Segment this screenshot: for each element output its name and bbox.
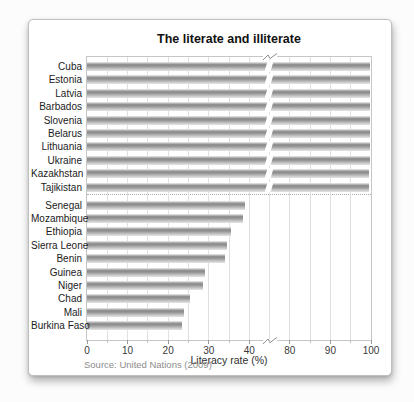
page-background: { "card": { "title": "The literate and i… <box>0 0 414 402</box>
row-label: Latvia <box>31 88 82 99</box>
gridline <box>249 57 250 340</box>
x-tick-label: 20 <box>153 345 183 356</box>
plot-area <box>86 56 372 341</box>
axis-tick <box>127 340 128 344</box>
row-label: Niger <box>31 280 82 291</box>
x-tick-label: 0 <box>72 345 102 356</box>
row-label: Estonia <box>31 74 82 85</box>
row-label: Sierra Leone <box>31 240 82 251</box>
bar <box>87 214 243 223</box>
row-label: Lithuania <box>31 141 82 152</box>
row-label: Barbados <box>31 101 82 112</box>
row-label: Tajikistan <box>31 182 82 193</box>
bar <box>87 142 370 151</box>
x-tick-label: 40 <box>234 345 264 356</box>
axis-tick <box>168 340 169 344</box>
axis-tick <box>289 340 290 344</box>
x-tick-label: 90 <box>315 345 345 356</box>
bar <box>87 294 190 303</box>
x-tick-label: 80 <box>275 345 305 356</box>
bar <box>87 254 225 263</box>
axis-tick <box>87 340 88 344</box>
row-label: Mozambique <box>31 213 82 224</box>
gridline <box>229 57 230 340</box>
chart-card: The literate and illiterate Literacy rat… <box>28 19 392 376</box>
axis-tick <box>208 340 209 344</box>
x-tick-label: 100 <box>356 345 386 356</box>
row-label: Ukraine <box>31 155 82 166</box>
x-tick-label: 10 <box>113 345 143 356</box>
axis-tick <box>310 340 311 343</box>
bar <box>87 156 370 165</box>
x-tick-label: 30 <box>194 345 224 356</box>
axis-tick <box>350 340 351 343</box>
row-label: Burkina Faso <box>31 320 82 331</box>
row-label: Slovenia <box>31 115 82 126</box>
bar <box>87 241 227 250</box>
bar <box>87 268 205 277</box>
axis-tick <box>107 340 108 343</box>
bar <box>87 102 370 111</box>
bar <box>87 75 370 84</box>
gridline <box>208 57 209 340</box>
bar <box>87 169 369 178</box>
row-label: Benin <box>31 253 82 264</box>
bar <box>87 227 231 236</box>
axis-break-top-icon <box>262 52 278 62</box>
gridline <box>310 57 311 340</box>
gridline <box>330 57 331 340</box>
axis-tick <box>330 340 331 344</box>
axis-tick <box>147 340 148 343</box>
bar <box>87 308 184 317</box>
row-label: Senegal <box>31 200 82 211</box>
source-note: Source: United Nations (2009) <box>84 359 212 370</box>
gridline <box>269 57 270 340</box>
bar <box>87 62 370 71</box>
row-label: Kazakhstan <box>31 168 82 179</box>
bar <box>87 89 370 98</box>
gridline <box>350 57 351 340</box>
chart-title: The literate and illiterate <box>86 32 372 46</box>
bar <box>87 281 203 290</box>
row-label: Ethiopia <box>31 226 82 237</box>
row-label: Chad <box>31 293 82 304</box>
gridline <box>289 57 290 340</box>
axis-tick <box>229 340 230 343</box>
axis-tick <box>188 340 189 343</box>
bar <box>87 116 370 125</box>
row-label: Cuba <box>31 61 82 72</box>
bar <box>87 201 245 210</box>
axis-tick <box>371 340 372 344</box>
row-label: Mali <box>31 307 82 318</box>
axis-tick <box>269 340 270 343</box>
bar <box>87 183 369 192</box>
bar <box>87 129 370 138</box>
axis-tick <box>249 340 250 344</box>
bar <box>87 321 182 330</box>
row-label: Belarus <box>31 128 82 139</box>
row-label: Guinea <box>31 267 82 278</box>
